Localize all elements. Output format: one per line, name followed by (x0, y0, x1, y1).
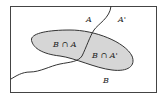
venn-diagram: A A' B ∩ A B ∩ A' B (0, 0, 162, 100)
label-b-and-a-complement: B ∩ A' (91, 51, 118, 60)
label-a-complement: A' (117, 15, 126, 24)
label-b-and-a: B ∩ A (52, 40, 77, 49)
label-a: A (85, 15, 92, 24)
label-b: B (102, 76, 109, 85)
